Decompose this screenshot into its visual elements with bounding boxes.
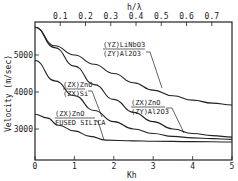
svg-text:(ZX)Si: (ZX)Si: [63, 90, 88, 98]
x2-tick-label: 0.1: [53, 12, 68, 21]
x-tick-label: 0: [33, 162, 38, 171]
x-tick-label: 5: [230, 162, 235, 171]
x-tick-label: 2: [111, 162, 116, 171]
x-tick-label: 4: [190, 162, 195, 171]
y-tick-label: 5000: [14, 51, 33, 60]
svg-text:(YZ)LiNbO3: (YZ)LiNbO3: [103, 41, 145, 49]
velocity-chart: 0123453000400050000.10.20.30.40.50.60.7 …: [0, 0, 238, 181]
annotation-zno-fused-silica: (ZX)ZnO FUSED SILICA: [55, 110, 106, 140]
svg-text:(ZY)Al2O3: (ZY)Al2O3: [103, 50, 141, 58]
x2-tick-label: 0.6: [179, 12, 194, 21]
x-tick-label: 3: [151, 162, 156, 171]
annotation-linbo3: (YZ)LiNbO3 (ZY)Al2O3: [103, 41, 162, 88]
svg-text:(ZX)ZnO: (ZX)ZnO: [55, 110, 85, 118]
x2-tick-label: 0.4: [129, 12, 144, 21]
x-axis-label: Kh: [127, 171, 137, 180]
svg-text:(ZX)ZnO: (ZX)ZnO: [63, 81, 93, 89]
x2-axis-label: h/λ: [127, 3, 142, 12]
x2-tick-label: 0.2: [78, 12, 93, 21]
svg-text:(ZX)ZnO: (ZX)ZnO: [131, 99, 161, 107]
x2-tick-label: 0.3: [104, 12, 119, 21]
svg-text:(ZY)Al2O3: (ZY)Al2O3: [131, 108, 169, 116]
x2-tick-label: 0.5: [154, 12, 169, 21]
y-axis-label: Velocity (m/sec): [4, 55, 13, 132]
y-tick-label: 3000: [14, 125, 33, 134]
annotation-zno-al2o3: (ZX)ZnO (ZY)Al2O3: [131, 99, 184, 133]
ticks: 0123453000400050000.10.20.30.40.50.60.7: [14, 12, 235, 171]
x-tick-label: 1: [72, 162, 77, 171]
y-tick-label: 4000: [14, 88, 33, 97]
x2-tick-label: 0.7: [205, 12, 220, 21]
